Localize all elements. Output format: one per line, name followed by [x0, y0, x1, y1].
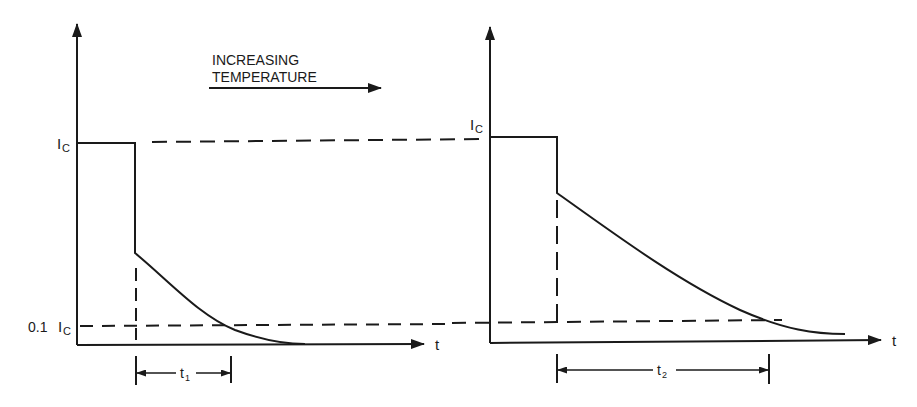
left-x-axis [77, 344, 424, 345]
svg-text:I: I [470, 116, 474, 133]
svg-text:0.1: 0.1 [28, 319, 48, 335]
annotation-line2: TEMPERATURE [212, 69, 317, 85]
svg-text:I: I [57, 135, 61, 152]
ic-dashed-line [152, 139, 487, 142]
left-ic-label: I C [57, 135, 70, 154]
right-tenth-ic-dashed-line [452, 320, 782, 323]
svg-text:t: t [180, 365, 184, 381]
right-x-axis-label: t [892, 332, 897, 349]
annotation-line1: INCREASING [212, 52, 299, 68]
left-current-waveform [78, 143, 305, 344]
svg-text:I: I [58, 318, 62, 335]
svg-text:1: 1 [185, 373, 190, 383]
diagram-canvas: INCREASING TEMPERATURE t I C 0.1 I C [0, 0, 917, 407]
svg-text:t: t [657, 362, 661, 378]
svg-text:C: C [62, 142, 70, 154]
right-ic-label: I C [470, 116, 483, 135]
svg-text:C: C [63, 325, 71, 337]
left-x-axis-label: t [435, 336, 440, 353]
t1-label: t 1 [180, 365, 190, 383]
right-current-waveform [491, 137, 845, 334]
svg-text:C: C [475, 123, 483, 135]
temperature-annotation: INCREASING TEMPERATURE [209, 52, 381, 88]
right-x-axis [490, 340, 881, 343]
right-panel: t I C t 2 [452, 27, 897, 384]
left-tenth-ic-label: 0.1 I C [28, 318, 71, 337]
tenth-ic-dashed-line [80, 324, 449, 326]
t2-label: t 2 [657, 362, 667, 380]
svg-text:2: 2 [662, 370, 667, 380]
